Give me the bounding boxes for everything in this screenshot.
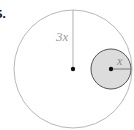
inner-center-dot <box>109 67 113 71</box>
outer-radius-label: 3x <box>55 29 69 44</box>
circle-diagram: 3x x <box>0 0 134 130</box>
inner-radius-label: x <box>116 54 123 68</box>
outer-center-dot <box>71 67 75 71</box>
